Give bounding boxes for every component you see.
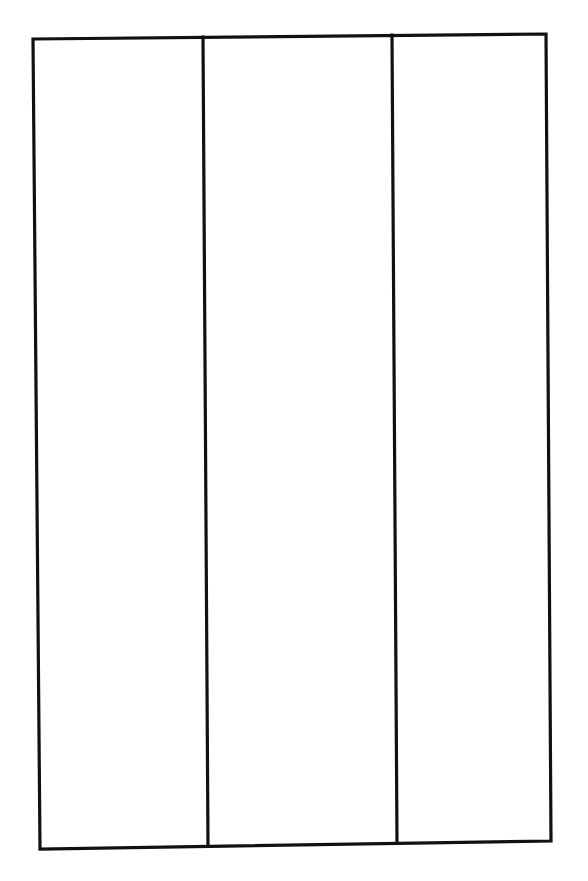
background xyxy=(0,0,588,881)
three-panel-diagram xyxy=(0,0,588,881)
